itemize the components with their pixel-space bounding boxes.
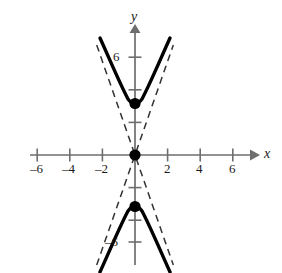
x-tick-label-2: 2 [164,161,171,177]
x-tick-label-4: 4 [196,161,203,177]
x-axis-arrowhead [250,150,260,161]
axes-group [30,24,260,265]
hyperbola-graph-figure: –6 –4 –2 2 4 6 6 –6 y x [0,0,282,273]
y-axis-label: y [131,9,137,25]
y-axis-arrowhead [130,24,141,33]
lower-vertex-point [129,201,140,212]
origin-point [129,149,140,160]
x-tick-label--4: –4 [62,161,75,177]
x-tick-label-6: 6 [229,161,236,177]
y-tick-label--6: –6 [105,234,118,250]
x-tick-label--6: –6 [30,161,43,177]
x-axis-label: x [264,146,270,162]
x-tick-label--2: –2 [95,161,108,177]
upper-vertex-point [129,98,140,109]
plot-canvas [0,0,282,273]
y-tick-label-6: 6 [113,49,120,65]
